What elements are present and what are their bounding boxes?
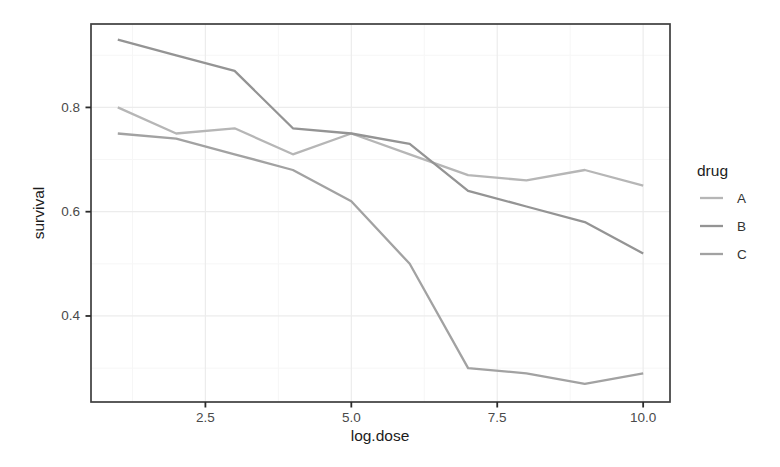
series-line-C [118, 134, 643, 384]
axis-ticks [86, 107, 644, 407]
x-axis-title: log.dose [351, 427, 410, 444]
series-line-B [118, 40, 643, 254]
x-tick-label: 5.0 [342, 410, 361, 425]
legend-label-C: C [737, 247, 747, 262]
grid-major [91, 24, 670, 402]
panel-border [91, 24, 670, 402]
y-axis-title: survival [30, 187, 47, 240]
y-tick-label: 0.6 [61, 204, 80, 219]
x-tick-label: 2.5 [196, 410, 215, 425]
chart-figure: 2.55.07.510.00.80.60.4 log.dose survival… [0, 0, 780, 467]
y-tick-label: 0.4 [61, 308, 80, 323]
series-line-A [118, 107, 643, 185]
legend-label-B: B [737, 219, 746, 234]
grid-minor [91, 24, 670, 402]
legend-label-A: A [737, 191, 746, 206]
x-tick-label: 7.5 [488, 410, 507, 425]
axis-tick-labels: 2.55.07.510.00.80.60.4 [61, 100, 656, 425]
legend-title: drug [697, 162, 728, 179]
legend: drug ABC [697, 162, 747, 262]
y-tick-label: 0.8 [61, 100, 80, 115]
line-chart: 2.55.07.510.00.80.60.4 log.dose survival… [0, 0, 780, 467]
x-tick-label: 10.0 [630, 410, 656, 425]
